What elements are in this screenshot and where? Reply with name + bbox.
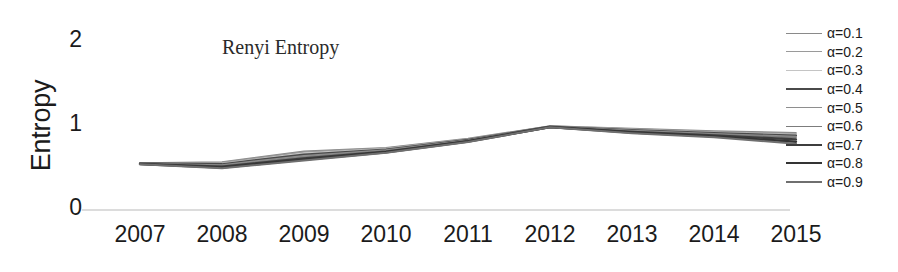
legend-item-0[interactable]: α=0.1: [786, 24, 898, 43]
legend-swatch-icon: [786, 107, 822, 108]
plot-area: [82, 8, 790, 213]
legend-item-7[interactable]: α=0.8: [786, 154, 898, 173]
x-axis-tick-labels: 200720082009201020112012201320142015: [82, 221, 790, 255]
legend-swatch-icon: [786, 70, 822, 71]
legend-label: α=0.3: [827, 63, 863, 77]
legend-item-2[interactable]: α=0.3: [786, 61, 898, 80]
x-tick-2014: 2014: [674, 221, 754, 248]
legend-label: α=0.5: [827, 101, 863, 115]
y-tick-0: 0: [42, 194, 82, 221]
legend-label: α=0.4: [827, 82, 863, 96]
legend-item-1[interactable]: α=0.2: [786, 43, 898, 62]
legend-swatch-icon: [786, 181, 822, 183]
legend-label: α=0.7: [827, 138, 863, 152]
legend-label: α=0.1: [827, 26, 863, 40]
legend-label: α=0.9: [827, 175, 863, 189]
series-line-3: [140, 127, 796, 165]
series-svg: [82, 8, 790, 213]
x-tick-2009: 2009: [264, 221, 344, 248]
y-tick-1: 1: [42, 110, 82, 137]
renyi-entropy-chart: Entropy 012 Renyi Entropy 20072008200920…: [0, 0, 898, 272]
x-tick-2008: 2008: [182, 221, 262, 248]
y-axis-tick-labels: 012: [40, 0, 82, 272]
x-tick-2011: 2011: [428, 221, 508, 248]
legend-label: α=0.2: [827, 45, 863, 59]
legend-swatch-icon: [786, 51, 822, 52]
legend-item-6[interactable]: α=0.7: [786, 136, 898, 155]
chart-legend: α=0.1α=0.2α=0.3α=0.4α=0.5α=0.6α=0.7α=0.8…: [786, 24, 898, 191]
legend-item-3[interactable]: α=0.4: [786, 80, 898, 99]
legend-swatch-icon: [786, 88, 822, 90]
y-tick-2: 2: [42, 26, 82, 53]
x-tick-2007: 2007: [100, 221, 180, 248]
legend-item-4[interactable]: α=0.5: [786, 98, 898, 117]
legend-item-5[interactable]: α=0.6: [786, 117, 898, 136]
data-series-group: [140, 126, 796, 168]
legend-swatch-icon: [786, 33, 822, 34]
x-tick-2015: 2015: [756, 221, 836, 248]
legend-label: α=0.8: [827, 156, 863, 170]
legend-label: α=0.6: [827, 119, 863, 133]
legend-swatch-icon: [786, 162, 822, 164]
x-tick-2012: 2012: [510, 221, 590, 248]
legend-item-8[interactable]: α=0.9: [786, 173, 898, 192]
chart-title: Renyi Entropy: [222, 36, 339, 59]
legend-swatch-icon: [786, 144, 822, 146]
legend-swatch-icon: [786, 126, 822, 127]
x-tick-2010: 2010: [346, 221, 426, 248]
x-tick-2013: 2013: [592, 221, 672, 248]
